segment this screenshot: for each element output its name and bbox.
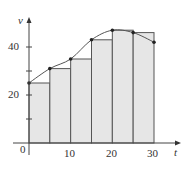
rectangle <box>112 30 133 143</box>
data-point <box>111 28 115 32</box>
y-axis-label: v <box>18 14 23 26</box>
data-point <box>90 38 94 42</box>
data-point <box>131 31 135 35</box>
x-axis-label: t <box>174 146 178 158</box>
data-point <box>48 67 52 71</box>
x-tick-label-30: 30 <box>147 147 159 159</box>
rectangle <box>50 69 71 143</box>
rectangle <box>133 33 154 143</box>
x-tick-label-10: 10 <box>64 147 76 159</box>
x-tick-label-20: 20 <box>106 147 118 159</box>
origin-label: 0 <box>20 143 26 155</box>
x-axis-arrow-icon <box>175 141 181 146</box>
riemann-sum-chart: v t 0 10 20 30 20 40 <box>0 0 193 169</box>
rectangle <box>92 40 113 143</box>
y-axis-arrow-icon <box>27 17 32 23</box>
rectangle <box>71 59 92 143</box>
data-point <box>152 40 156 44</box>
rectangles <box>29 30 154 143</box>
y-tick-label-40: 40 <box>8 40 20 52</box>
rectangle <box>29 83 50 143</box>
data-point <box>69 57 73 61</box>
y-tick-label-20: 20 <box>8 88 20 100</box>
